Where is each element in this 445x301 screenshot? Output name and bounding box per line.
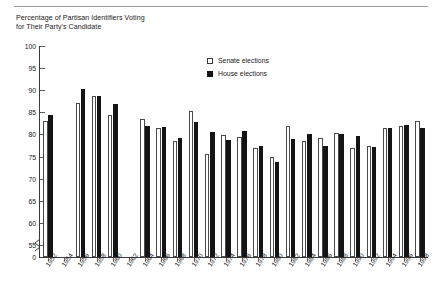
bar-house	[162, 127, 167, 257]
bar-house	[388, 128, 393, 257]
y-tick-label: 65	[14, 197, 36, 204]
bar-senate	[76, 103, 81, 257]
legend-item-house: House elections	[207, 68, 269, 79]
y-tick-label: 0	[14, 254, 36, 261]
chart-title-line-1: Percentage of Partisan Identifiers Votin…	[16, 14, 276, 23]
bar-senate	[399, 126, 404, 257]
bar-house	[372, 147, 377, 257]
bar-house	[97, 96, 102, 257]
bar-senate	[205, 154, 210, 257]
bar-senate	[383, 128, 388, 257]
bar-house	[259, 146, 264, 258]
bar-senate	[253, 148, 258, 257]
bar-senate	[415, 121, 420, 257]
bar-senate	[350, 148, 355, 257]
bar-house	[194, 122, 199, 257]
y-tick-label: 85	[14, 109, 36, 116]
bar-senate	[140, 119, 145, 257]
bar-house	[275, 162, 280, 257]
bar-senate	[108, 115, 113, 257]
chart-figure: Percentage of Partisan Identifiers Votin…	[0, 0, 445, 301]
legend-label-house: House elections	[218, 70, 267, 77]
chart-title: Percentage of Partisan Identifiers Votin…	[16, 14, 276, 32]
bar-senate	[334, 133, 339, 257]
bar-house	[226, 140, 231, 257]
legend-label-senate: Senate elections	[218, 57, 269, 64]
bar-house	[291, 139, 296, 257]
bar-senate	[270, 157, 275, 257]
bar-house	[323, 146, 328, 258]
legend-item-senate: Senate elections	[207, 55, 269, 66]
bar-house	[420, 128, 425, 257]
bar-senate	[221, 135, 226, 257]
y-tick-label: 80	[14, 131, 36, 138]
header-divider	[14, 6, 428, 7]
bar-senate	[286, 126, 291, 257]
y-tick-label: 100	[14, 43, 36, 50]
bar-senate	[318, 138, 323, 257]
bar-house	[48, 115, 53, 257]
bar-senate	[302, 141, 307, 257]
bar-house	[242, 131, 247, 257]
y-tick-label: 60	[14, 219, 36, 226]
y-tick-label: 70	[14, 175, 36, 182]
bar-senate	[367, 146, 372, 257]
legend-swatch-senate-icon	[207, 58, 213, 64]
x-axis-labels: 1952195419561958196019621964196619681970…	[0, 262, 445, 301]
y-tick-label: 55	[14, 242, 36, 249]
bar-house	[356, 136, 361, 257]
bar-senate	[92, 96, 97, 257]
chart-legend: Senate elections House elections	[207, 55, 269, 81]
bar-house	[178, 138, 183, 257]
legend-swatch-house-icon	[207, 71, 213, 77]
bar-house	[81, 89, 86, 257]
bar-senate	[237, 137, 242, 257]
bar-house	[145, 126, 150, 257]
y-tick-label: 95	[14, 65, 36, 72]
chart-title-line-2: for Their Party's Candidate	[16, 23, 276, 32]
y-tick-label: 75	[14, 153, 36, 160]
bar-senate	[189, 111, 194, 257]
bar-house	[339, 134, 344, 257]
bar-senate	[173, 141, 178, 257]
bar-senate	[156, 128, 161, 257]
bar-house	[113, 104, 118, 257]
bar-senate	[43, 121, 48, 257]
y-tick-label: 90	[14, 87, 36, 94]
bar-house	[404, 125, 409, 257]
bar-house	[210, 132, 215, 257]
bar-house	[307, 134, 312, 257]
